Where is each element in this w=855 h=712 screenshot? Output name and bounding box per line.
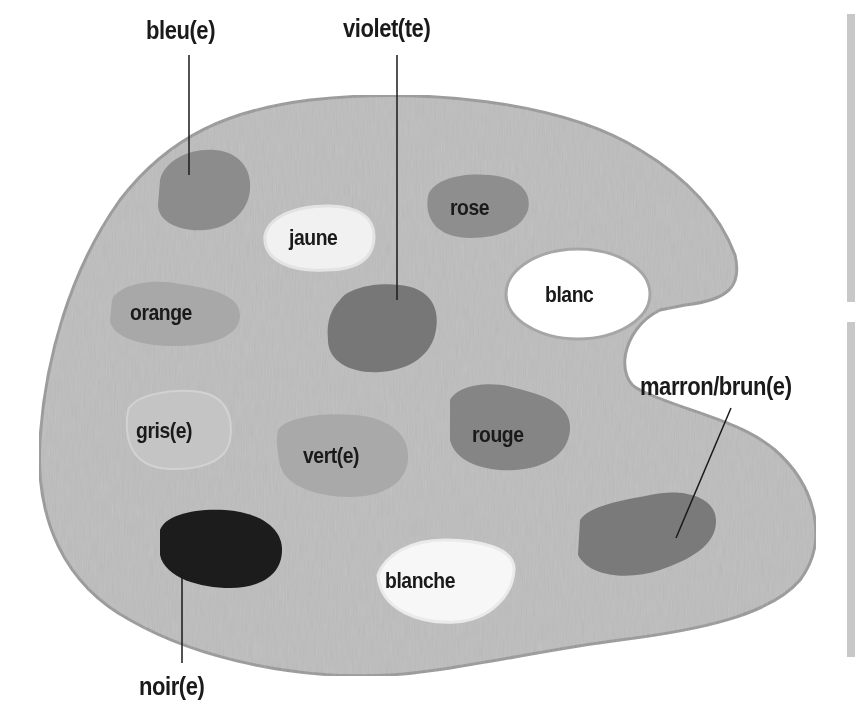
label-blanche: blanche	[385, 568, 455, 594]
label-gris: gris(e)	[136, 418, 192, 444]
side-bar-bottom	[847, 322, 855, 657]
label-blanc: blanc	[545, 282, 593, 308]
label-orange: orange	[130, 300, 192, 326]
label-rose: rose	[450, 195, 489, 221]
label-rouge: rouge	[472, 422, 524, 448]
palette-diagram: bleu(e) violet(te) marron/brun(e) noir(e…	[0, 0, 855, 712]
label-noir: noir(e)	[139, 672, 204, 701]
label-marron: marron/brun(e)	[640, 372, 792, 401]
palette-illustration	[0, 0, 855, 712]
label-violet: violet(te)	[343, 14, 430, 43]
label-bleu: bleu(e)	[146, 16, 215, 45]
side-bar-top	[847, 14, 855, 302]
label-vert: vert(e)	[303, 443, 359, 469]
label-jaune: jaune	[289, 225, 337, 251]
blob-noir	[160, 510, 282, 588]
